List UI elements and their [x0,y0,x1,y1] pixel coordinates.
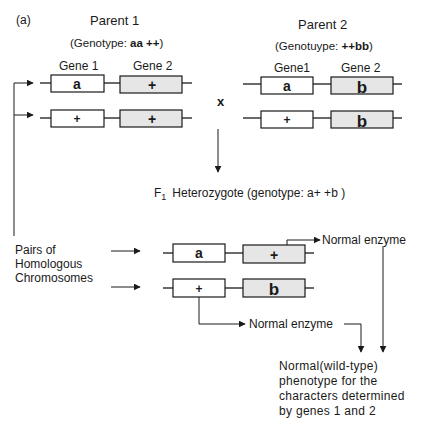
parent2-title: Parent 2 [298,17,347,32]
parent2-genotype-value: ++bb [341,40,368,52]
f1-label: F1Heterozygote (genotype: a+ +b ) [154,186,345,202]
phenotype-result: Normal(wild-type) phenotype for the char… [279,359,408,418]
parent2-gene2-label: Gene 2 [341,61,381,75]
parent1-genotype: (Genotype: aa ++) [70,37,164,49]
parent1-gene1-label: Gene 1 [59,59,99,73]
f1-label-sub: 1 [161,192,166,202]
homologous-label-line: Pairs of [15,243,56,257]
allele-label: + [73,112,80,126]
homologous-label: Pairs of Homologous Chromosomes [15,243,93,285]
parent1-genotype-value: aa ++ [130,37,160,49]
parent1-chromosome-1: a + [40,75,192,93]
product-bottom-label: Normal enzyme [249,317,333,331]
parent1-genotype-suffix: ) [160,37,164,49]
allele-label: + [148,77,156,93]
parent1-title: Parent 1 [90,13,139,28]
allele-label: b [357,112,367,131]
product-top-label: Normal enzyme [322,233,406,247]
homologous-bracket [14,83,33,236]
parent2-gene1-label: Gene1 [274,61,310,75]
parent2-genotype-suffix: ) [369,40,373,52]
allele-label: + [283,113,290,127]
f1-label-f: F [154,186,161,200]
genetic-cross-diagram: (a) Parent 1 (Genotype: aa ++) Gene 1 Ge… [0,0,437,430]
parent2-header: Parent 2 (Genotuype: ++bb) Gene1 Gene 2 [274,17,381,75]
phenotype-line: by genes 1 and 2 [279,404,376,418]
phenotype-line: phenotype for the [279,374,378,388]
phenotype-line: characters determined [279,389,405,403]
parent1-gene2-label: Gene 2 [133,59,173,73]
allele-label: + [195,282,202,296]
allele-label: + [148,111,156,127]
allele-label: + [270,247,278,263]
enzyme-pathway-bottom: Normal enzyme [199,297,361,352]
homologous-label-line: Homologous [15,257,82,271]
parent1-chromosome-2: + + [40,110,192,127]
panel-label: (a) [16,13,31,27]
allele-label: a [283,78,291,94]
allele-label: a [195,245,203,261]
homologous-label-line: Chromosomes [15,271,93,285]
allele-label: a [73,76,81,92]
phenotype-line: Normal(wild-type) [279,359,378,373]
parent1-genotype-prefix: (Genotype: [70,37,130,49]
allele-label: b [357,78,367,97]
f1-chromosome-2: + b [163,279,314,299]
parent2-chromosome-1: a b [243,77,402,97]
parent2-genotype-prefix: (Genotuype: [275,40,341,52]
parent2-chromosome-2: + b [243,111,402,131]
allele-label: b [269,280,279,299]
parent1-header: Parent 1 (Genotype: aa ++) Gene 1 Gene 2 [59,13,173,73]
f1-chromosome-1: a + [163,244,314,263]
cross-symbol: x [217,94,225,109]
f1-label-text: Heterozygote (genotype: a+ +b ) [172,186,345,200]
parent2-genotype: (Genotuype: ++bb) [275,40,373,52]
